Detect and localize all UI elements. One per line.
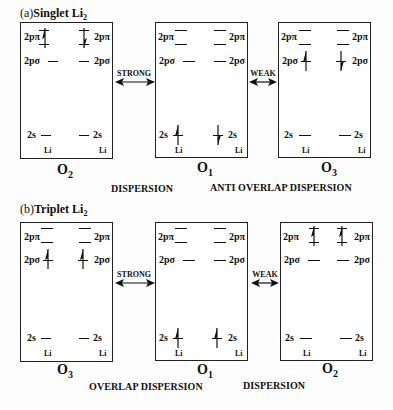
level-2psigma-left <box>308 260 320 261</box>
arrow-label-weak: WEAK <box>247 69 279 78</box>
orbital-label-o1: O1 <box>197 160 213 178</box>
label-2psigma-right: 2pσ <box>94 56 110 66</box>
atom-label-right: Li <box>99 146 107 155</box>
panel-a-box-o2: 2pπ 2pπ 2pσ 2pσ 2s 2s Li Li <box>20 22 113 159</box>
level-2ppi-lower-right <box>214 242 226 243</box>
panel-b-title: (b)Triplet Li2 <box>20 202 87 218</box>
label-2s-left: 2s <box>27 130 36 140</box>
panel-b-title-text: Triplet Li <box>34 202 83 216</box>
double-arrow-icon <box>115 78 155 86</box>
level-2ppi-upper-right <box>79 228 91 229</box>
label-2ppi-right: 2pπ <box>229 32 245 42</box>
orbital-name: O <box>197 160 208 175</box>
label-2ppi-left: 2pπ <box>24 32 40 42</box>
label-2psigma-right: 2pσ <box>229 255 245 265</box>
level-2psigma-right <box>337 260 349 261</box>
label-2ppi-left: 2pπ <box>281 32 297 42</box>
level-2s-right <box>339 135 351 136</box>
spin-down-arrow-icon <box>337 49 347 73</box>
level-2ppi-lower-right <box>79 242 91 243</box>
orbital-label-o2: O2 <box>322 361 338 379</box>
arrow-label-strong: STRONG <box>114 69 154 78</box>
caption-dispersion: DISPERSION <box>243 380 305 391</box>
label-2psigma-left: 2pσ <box>159 56 175 66</box>
spin-up-arrow-icon <box>338 224 348 248</box>
panel-a-title: (a)Singlet Li2 <box>20 6 87 22</box>
spin-down-arrow-icon <box>80 26 90 50</box>
label-2s-left: 2s <box>27 333 36 343</box>
level-2ppi-lower-left <box>175 242 187 243</box>
panel-b-box-o1: 2pπ 2pπ 2pσ 2pσ 2s 2s Li Li <box>155 222 248 361</box>
spin-up-arrow-icon <box>174 123 184 147</box>
level-2s-right <box>79 135 89 136</box>
label-2s-left: 2s <box>284 130 293 140</box>
level-2s-right <box>340 338 352 339</box>
label-2psigma-right: 2pσ <box>352 56 368 66</box>
label-2s-right: 2s <box>93 333 102 343</box>
level-2s-right <box>79 338 89 339</box>
level-2s-left <box>299 135 311 136</box>
spin-up-arrow-icon <box>213 326 223 350</box>
orbital-name: O <box>57 162 68 177</box>
level-2ppi-lower-right <box>214 44 226 45</box>
label-2ppi-left: 2pπ <box>283 232 299 242</box>
caption-overlap-dispersion: OVERLAP DISPERSION <box>89 381 203 392</box>
level-2s-left <box>300 338 312 339</box>
label-2psigma-left: 2pσ <box>284 255 300 265</box>
label-2s-right: 2s <box>228 130 237 140</box>
panel-a-prefix: (a) <box>20 6 33 20</box>
spin-up-arrow-icon <box>44 247 54 271</box>
double-arrow-icon <box>249 78 277 86</box>
label-2s-left: 2s <box>159 333 168 343</box>
level-2ppi-upper-left <box>175 228 187 229</box>
spin-up-arrow-icon <box>302 49 312 73</box>
orbital-label-o3: O3 <box>321 160 337 178</box>
spin-up-arrow-icon <box>79 247 89 271</box>
orbital-sub: 2 <box>333 368 338 379</box>
level-2ppi-upper-left <box>299 30 311 31</box>
arrow-label-strong: STRONG <box>114 270 154 279</box>
level-2psigma-right <box>214 260 226 261</box>
level-2ppi-upper-right <box>337 30 349 31</box>
orbital-name: O <box>321 160 332 175</box>
spin-down-arrow-icon <box>214 123 224 147</box>
atom-label-right: Li <box>235 146 243 155</box>
label-2psigma-right: 2pσ <box>229 56 245 66</box>
panel-b-box-o3: 2pπ 2pπ 2pσ 2pσ 2s 2s Li Li <box>20 222 113 362</box>
orbital-label-o3: O3 <box>57 362 73 380</box>
orbital-label-o1: O1 <box>197 362 213 380</box>
spin-up-arrow-icon <box>174 326 184 350</box>
orbital-sub: 3 <box>68 369 73 380</box>
label-2psigma-right: 2pσ <box>354 255 370 265</box>
orbital-name: O <box>197 362 208 377</box>
label-2ppi-right: 2pπ <box>354 232 370 242</box>
level-2ppi-lower-left <box>299 44 311 45</box>
level-2ppi-lower-right <box>337 44 349 45</box>
label-2psigma-left: 2pσ <box>24 255 40 265</box>
atom-label-left: Li <box>44 146 52 155</box>
atom-label-right: Li <box>235 349 243 358</box>
level-2psigma-right <box>79 61 89 62</box>
orbital-sub: 2 <box>68 169 73 180</box>
panel-a-box-o1: 2pπ 2pπ 2pσ 2pσ 2s 2s Li Li <box>155 22 248 158</box>
orbital-name: O <box>322 361 333 376</box>
arrow-label-weak: WEAK <box>249 270 281 279</box>
label-2ppi-left: 2pπ <box>158 232 174 242</box>
label-2s-right: 2s <box>93 130 102 140</box>
panel-b-box-o2: 2pπ 2pπ 2pσ 2pσ 2s 2s Li Li <box>280 222 373 361</box>
label-2ppi-right: 2pπ <box>229 232 245 242</box>
caption-dispersion: DISPERSION <box>111 183 173 194</box>
level-2ppi-lower-left <box>41 242 53 243</box>
atom-label-left: Li <box>175 349 183 358</box>
label-2s-left: 2s <box>159 130 168 140</box>
label-2ppi-left: 2pπ <box>158 32 174 42</box>
double-arrow-icon <box>251 279 279 287</box>
atom-label-right: Li <box>359 349 367 358</box>
panel-a-title-text: Singlet Li <box>33 6 83 20</box>
label-2psigma-left: 2pσ <box>24 56 40 66</box>
atom-label-left: Li <box>302 146 310 155</box>
label-2ppi-right: 2pπ <box>94 32 110 42</box>
label-2ppi-left: 2pπ <box>24 232 40 242</box>
spin-up-arrow-icon <box>41 26 51 50</box>
orbital-label-o2: O2 <box>57 162 73 180</box>
